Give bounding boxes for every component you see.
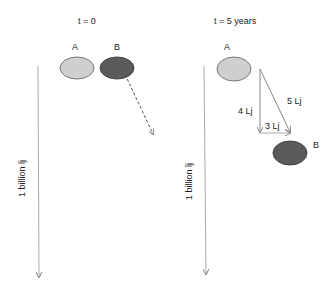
- diagram-canvas: [0, 0, 336, 288]
- triangle-vertical-label: 4 Lj: [238, 106, 253, 116]
- distance-arrow-right: [204, 66, 206, 274]
- label-b-t0: B: [114, 42, 120, 52]
- title-t0: t = 0: [78, 16, 96, 26]
- label-a-t0: A: [72, 42, 78, 52]
- triangle-hypotenuse-label: 5 Lj: [287, 96, 302, 106]
- object-b-t0: [100, 57, 134, 79]
- distance-label-right: 1 billion lj: [184, 163, 194, 200]
- label-a-t5: A: [224, 42, 230, 52]
- motion-arrow-b: [123, 70, 153, 134]
- label-b-t5: B: [313, 140, 319, 150]
- object-a-t0: [60, 57, 94, 79]
- distance-arrow-left: [38, 66, 39, 277]
- object-b-t5: [273, 141, 307, 165]
- distance-label-left: 1 billion lj: [17, 160, 27, 197]
- title-t5: t = 5 years: [214, 16, 256, 26]
- object-a-t5: [217, 57, 251, 81]
- triangle-horizontal-label: 3 Lj: [265, 121, 280, 131]
